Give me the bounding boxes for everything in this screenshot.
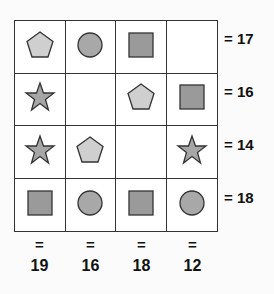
col-sum-equals: = <box>65 236 116 254</box>
star-icon <box>177 135 207 169</box>
row-sum-4: = 18 <box>224 189 254 206</box>
col-sum-1: = 19 <box>14 236 65 278</box>
col-sum-4: = 12 <box>167 236 218 278</box>
square-icon <box>126 30 156 64</box>
pentagon-icon <box>75 135 105 169</box>
grid-cell-r2-c3 <box>116 74 167 127</box>
star-icon <box>25 135 55 169</box>
square-icon <box>177 82 207 116</box>
grid-cell-r4-c3 <box>116 179 167 232</box>
col-sum-value: 12 <box>167 254 218 278</box>
grid-cell-r2-c1 <box>15 74 66 127</box>
row-sum-2: = 16 <box>224 83 254 100</box>
circle-icon <box>75 30 105 64</box>
grid-cell-r3-c2 <box>66 126 117 179</box>
grid-cell-r4-c4 <box>167 179 218 232</box>
col-sum-3: = 18 <box>116 236 167 278</box>
col-sum-equals: = <box>116 236 167 254</box>
col-sum-equals: = <box>14 236 65 254</box>
grid-cell-r1-c3 <box>116 21 167 74</box>
col-sum-equals: = <box>167 236 218 254</box>
grid-cell-r3-c4 <box>167 126 218 179</box>
grid-cell-r1-c4 <box>167 21 218 74</box>
grid-cell-r4-c2 <box>66 179 117 232</box>
square-icon <box>25 188 55 222</box>
grid-cell-r1-c2 <box>66 21 117 74</box>
circle-icon <box>75 188 105 222</box>
grid-cell-r4-c1 <box>15 179 66 232</box>
square-icon <box>126 188 156 222</box>
pentagon-icon <box>25 30 55 64</box>
grid-cell-r1-c1 <box>15 21 66 74</box>
circle-icon <box>177 188 207 222</box>
col-sum-value: 18 <box>116 254 167 278</box>
grid-cell-r3-c1 <box>15 126 66 179</box>
pentagon-icon <box>126 82 156 116</box>
grid-cell-r3-c3 <box>116 126 167 179</box>
grid-cell-r2-c2 <box>66 74 117 127</box>
puzzle-grid <box>14 20 218 232</box>
col-sum-2: = 16 <box>65 236 116 278</box>
row-sum-1: = 17 <box>224 30 254 47</box>
row-sum-3: = 14 <box>224 136 254 153</box>
col-sum-value: 19 <box>14 254 65 278</box>
star-icon <box>25 82 55 116</box>
col-sum-value: 16 <box>65 254 116 278</box>
grid-cell-r2-c4 <box>167 74 218 127</box>
